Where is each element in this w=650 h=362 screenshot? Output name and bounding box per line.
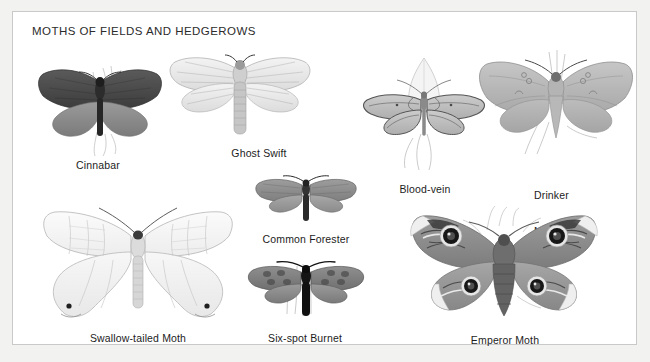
figure-blood-vein	[361, 52, 487, 172]
eyespot-forewing-left	[440, 225, 462, 247]
body	[548, 72, 564, 138]
body	[302, 179, 310, 221]
page-title: MOTHS OF FIELDS AND HEDGEROWS	[32, 25, 256, 37]
figure-ghost-swift	[165, 50, 315, 142]
eyespot-hindwing-left	[461, 276, 481, 296]
body	[233, 60, 247, 134]
figure-emperor-moth	[399, 204, 609, 326]
figure-common-forester	[253, 175, 359, 229]
stem-grass	[404, 134, 431, 170]
eyespot-forewing-right	[546, 225, 568, 247]
caption-six-spot-burnet: Six-spot Burnet	[268, 332, 342, 344]
caption-swallow-tailed-moth: Swallow-tailed Moth	[90, 332, 186, 344]
figure-cinnabar	[33, 54, 167, 158]
body	[301, 265, 311, 316]
caption-common-forester: Common Forester	[263, 233, 350, 245]
caption-ghost-swift: Ghost Swift	[231, 147, 286, 159]
caption-cinnabar: Cinnabar	[76, 159, 120, 171]
eyespot-hindwing-right	[527, 276, 547, 296]
caption-blood-vein: Blood-vein	[399, 183, 450, 195]
figure-drinker-moth	[471, 46, 641, 158]
caption-drinker-moth-line1: Drinker	[534, 189, 569, 201]
illustration-plate: MOTHS OF FIELDS AND HEDGEROWS	[12, 11, 637, 345]
body	[493, 234, 515, 316]
caption-emperor-moth: Emperor Moth	[471, 334, 539, 346]
figure-six-spot-burnet	[241, 260, 371, 322]
body	[131, 230, 145, 308]
figure-swallow-tailed-moth	[35, 198, 241, 330]
